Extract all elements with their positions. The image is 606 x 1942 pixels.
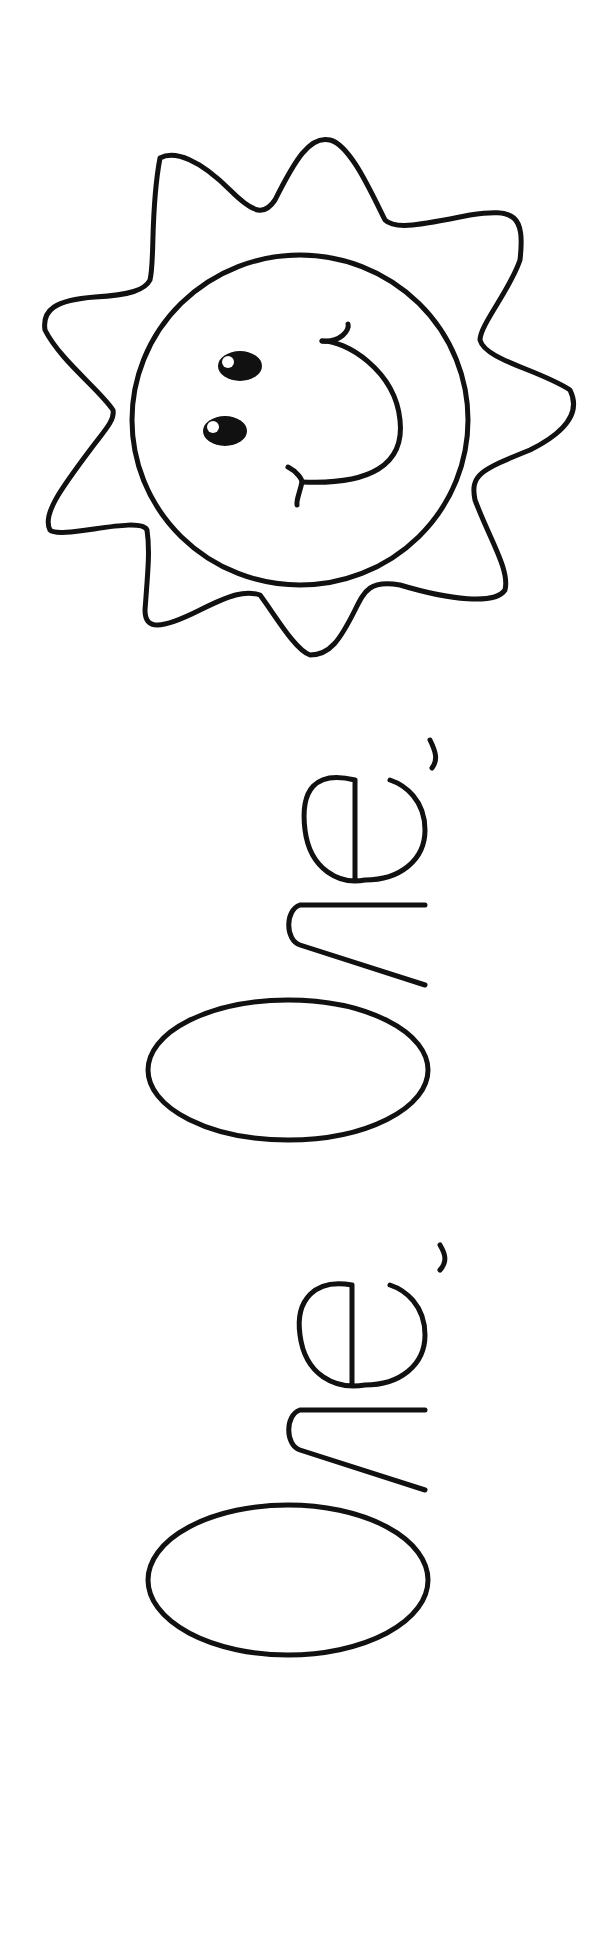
letter-n-upper: [289, 905, 425, 985]
letter-n-lower: [289, 1410, 425, 1490]
comma-upper: [430, 740, 436, 768]
letter-e-lower: [299, 1284, 425, 1386]
letter-O-lower: [148, 1505, 428, 1655]
caption-lettering: [0, 700, 606, 1942]
caption: One, One,: [0, 700, 606, 1942]
smile-dimple-bottom: [288, 467, 302, 505]
letter-e-upper: [304, 777, 425, 880]
sun-rays: [45, 139, 574, 655]
sun-face: [132, 255, 468, 585]
eyes: [203, 351, 262, 446]
smile: [302, 341, 400, 482]
sun-illustration: [0, 100, 606, 700]
comma-lower: [440, 1245, 445, 1270]
letter-O-upper: [148, 1000, 428, 1140]
